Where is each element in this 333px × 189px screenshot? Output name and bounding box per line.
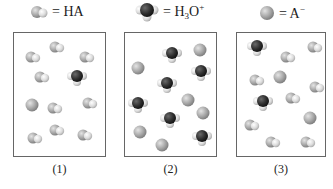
hydronium-molecule-icon [247,39,267,57]
legend-ha-label: = HA [52,4,84,20]
ha-molecule-icon [249,74,265,86]
legend-anion: = A− [259,4,305,22]
hydronium-molecule-icon [160,111,180,129]
anion-sphere-icon [155,138,169,152]
hydronium-molecule-icon [191,64,211,82]
ha-molecule-icon [79,51,95,63]
anion-sphere-icon [259,5,275,21]
anion-sphere-icon [193,43,207,57]
ha-molecule-icon [47,102,63,114]
hydronium-molecule-icon [67,69,87,87]
legend-anion-label: = A− [279,4,305,22]
panel-caption-2: (2) [141,162,201,177]
ha-molecule-icon [280,51,296,63]
ha-molecule-icon [285,92,301,104]
legend-ha: = HA [30,4,84,20]
ha-molecule-icon [27,132,43,144]
ha-molecule-icon [77,129,93,141]
ha-molecule-icon [49,41,65,53]
anion-sphere-icon [131,61,145,75]
ha-molecule-icon [244,119,260,131]
anion-sphere-icon [25,98,39,112]
anion-sphere-icon [181,93,195,107]
hydronium-molecule-icon [128,96,148,114]
ha-molecule-icon [309,81,325,93]
legend-hydronium: = H3O+ [135,2,204,22]
hydronium-molecule-icon [135,2,159,22]
ha-molecule-icon [49,124,65,136]
hydronium-molecule-icon [162,46,182,64]
hydronium-molecule-icon [253,94,273,112]
anion-sphere-icon [196,106,210,120]
panel-caption-1: (1) [30,162,90,177]
ha-molecule-icon [265,136,281,148]
ha-molecule-icon [82,97,98,109]
anion-sphere-icon [273,70,287,84]
hydronium-molecule-icon [157,76,177,94]
legend-hydronium-label: = H3O+ [163,2,204,21]
anion-sphere-icon [133,125,147,139]
ha-molecule-icon [34,71,50,83]
ha-molecule-icon [25,51,41,63]
ha-molecule-icon [307,41,323,53]
ha-molecule-icon [300,136,316,148]
hydronium-molecule-icon [192,129,212,147]
anion-sphere-icon [303,111,317,125]
panel-caption-3: (3) [251,162,311,177]
ha-molecule-icon [30,5,48,19]
